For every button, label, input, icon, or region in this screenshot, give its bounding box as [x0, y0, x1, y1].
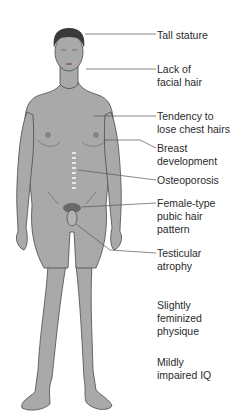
label-lose-chest-hairs: Tendency to lose chest hairs [157, 110, 230, 136]
label-breast-development: Breast development [157, 142, 217, 168]
label-impaired-iq: Mildly impaired IQ [157, 356, 211, 382]
label-female-pubic-hair: Female-type pubic hair pattern [157, 197, 215, 236]
label-tall-stature: Tall stature [157, 29, 208, 42]
label-testicular-atrophy: Testicular atrophy [157, 247, 201, 273]
label-osteoporosis: Osteoporosis [157, 174, 219, 187]
label-lack-facial-hair: Lack of facial hair [157, 63, 202, 89]
label-feminized-physique: Slightly feminized physique [157, 299, 202, 338]
